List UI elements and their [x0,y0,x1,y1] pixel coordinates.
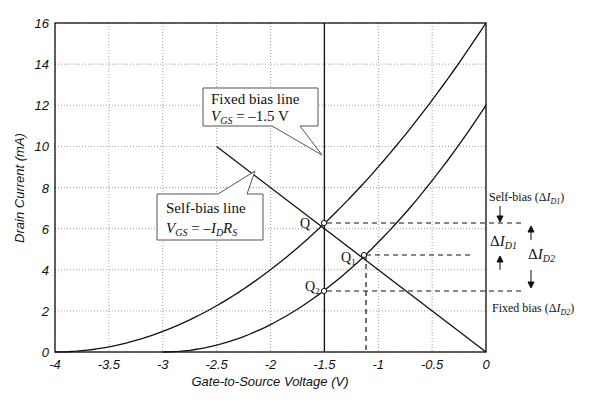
y-tick-label: 10 [35,139,50,154]
x-tick-label: -0.5 [421,357,444,372]
q-label: Q [300,216,310,231]
y-axis-label: Drain Current (mA) [12,133,27,243]
x-tick-label: 0 [482,357,490,372]
transfer-characteristic-chart: -4-3.5-3-2.5-2-1.5-1-0.500246810121416 G… [0,0,596,406]
y-tick-label: 2 [41,304,50,319]
x-axis-label: Gate-to-Source Voltage (V) [191,374,348,389]
y-tick-label: 12 [35,98,50,113]
x-tick-label: -2 [265,357,277,372]
fixed-bias-title: Fixed bias line [211,91,300,107]
q1-label: Q1 [341,250,356,267]
y-tick-label: 8 [42,181,50,196]
self-bias-callout: Self-bias line VGS = –IDRS [157,171,263,240]
x-tick-label: -1 [372,357,384,372]
q2-point [321,288,326,293]
self-bias-title: Self-bias line [166,200,246,216]
series-line [217,146,486,352]
x-tick-label: -3.5 [98,357,121,372]
y-tick-label: 6 [42,222,50,237]
q-point [321,220,326,225]
delta-id2-label: ΔID2 [528,246,555,264]
fixed-bias-callout: Fixed bias line VGS = –1.5 V [203,88,322,155]
q1-point [361,252,366,257]
y-tick-label: 14 [35,57,49,72]
q2-label: Q2 [305,279,320,296]
delta-annotations: Self-bias (ΔID1) Fixed bias (ΔID2) ΔID1 … [489,190,574,317]
x-tick-label: -3 [157,357,169,372]
x-tick-label: -4 [49,357,61,372]
delta-id1-label: ΔID1 [490,233,517,251]
x-tick-label: -2.5 [205,357,228,372]
y-tick-label: 0 [42,345,50,360]
x-tick-label: -1.5 [313,357,336,372]
fixed-bias-delta-label: Fixed bias (ΔID2) [492,301,574,317]
self-bias-delta-label: Self-bias (ΔID1) [489,190,564,206]
y-tick-label: 16 [35,16,50,31]
y-tick-label: 4 [42,263,49,278]
